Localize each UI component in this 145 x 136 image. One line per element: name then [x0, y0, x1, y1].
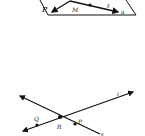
- diagram-canvas: P M ℓ a R Q P t s: [0, 0, 145, 136]
- corner-mark: a: [121, 8, 125, 15]
- point-on-line: [88, 3, 91, 6]
- plane-figure: P M ℓ a: [40, 0, 136, 15]
- line-t-label: t: [117, 91, 120, 97]
- point-m-label: M: [71, 6, 79, 13]
- point-q-label: Q: [34, 115, 39, 122]
- intersecting-lines-figure: R Q P t s: [20, 91, 133, 136]
- line-t: [23, 92, 133, 131]
- plane-label: P: [41, 5, 48, 14]
- point-q: [35, 123, 38, 126]
- line-l-left-segment: [52, 1, 70, 12]
- point-p-label: P: [77, 118, 83, 125]
- point-r: [58, 115, 62, 119]
- line-s-label: s: [101, 131, 104, 136]
- point-r-label: R: [56, 123, 62, 130]
- line-l-label: ℓ: [107, 2, 110, 9]
- point-p: [73, 122, 76, 125]
